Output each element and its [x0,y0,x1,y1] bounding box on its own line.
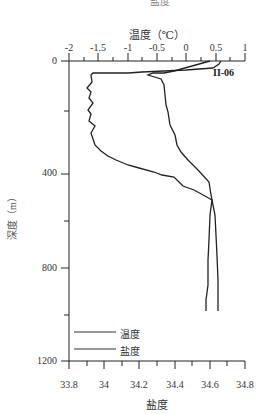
axes [61,53,245,369]
temperature-line [87,61,221,311]
plot-canvas [0,0,257,414]
